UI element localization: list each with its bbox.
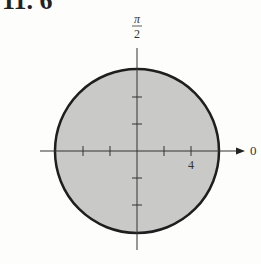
tick-label-4: 4 <box>188 158 194 172</box>
polar-plot: 4 0 π 2 <box>0 0 261 264</box>
polar-axis-label: 0 <box>250 143 257 158</box>
pi-numerator: π <box>134 12 141 26</box>
arrow-right-icon <box>236 148 245 155</box>
pi-denominator: 2 <box>134 27 140 41</box>
